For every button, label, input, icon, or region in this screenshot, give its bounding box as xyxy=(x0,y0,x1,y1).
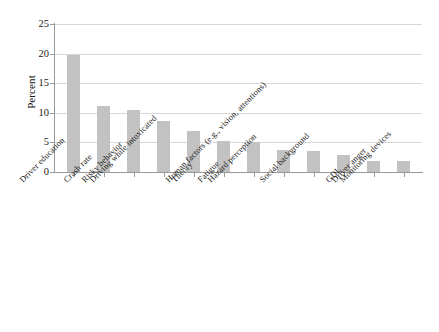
x-tick-mark-9 xyxy=(314,173,315,177)
gridline-25 xyxy=(55,24,422,25)
x-tick-mark-11 xyxy=(374,173,375,177)
y-tick-label-15: 15 xyxy=(5,78,49,89)
bar-driving-while-intoxicated xyxy=(157,121,170,172)
x-tick-mark-7 xyxy=(254,173,255,177)
bar-monitoring-devices xyxy=(397,161,410,172)
x-tick-mark-12 xyxy=(404,173,405,177)
x-tick-mark-3 xyxy=(134,173,135,177)
y-tick-label-5: 5 xyxy=(5,137,49,148)
gridline-20 xyxy=(55,54,422,55)
bar-chart-figure: Percent 25 20 15 10 5 0 xyxy=(0,0,439,332)
x-tick-mark-6 xyxy=(224,173,225,177)
x-tick-mark-8 xyxy=(284,173,285,177)
x-axis-line xyxy=(54,172,423,173)
y-tick-label-20: 20 xyxy=(5,49,49,60)
bar-driver-education xyxy=(67,55,80,172)
gridline-15 xyxy=(55,83,422,84)
y-tick-label-10: 10 xyxy=(5,108,49,119)
y-tick-label-25: 25 xyxy=(5,19,49,30)
bar-social-background xyxy=(307,151,320,172)
bar-driver-anger xyxy=(367,161,380,172)
